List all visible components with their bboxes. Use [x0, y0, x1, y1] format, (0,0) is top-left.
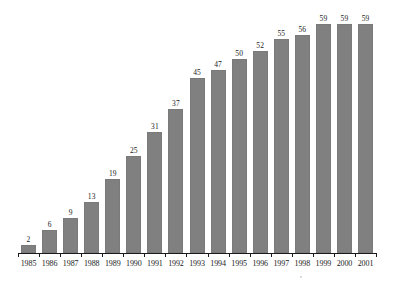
- bar-value-label: 2: [27, 235, 31, 244]
- bar-value-label: 59: [362, 14, 370, 23]
- x-axis-tick: [60, 253, 61, 257]
- bar: [126, 156, 141, 253]
- bar-chart: 2691319253137454750525556595959 19851986…: [0, 0, 394, 283]
- bar-value-label: 13: [88, 192, 96, 201]
- bar-value-label: 50: [235, 49, 243, 58]
- x-axis-tick: [208, 253, 209, 257]
- scan-artifact-speck: [300, 276, 302, 278]
- plot-area: 2691319253137454750525556595959: [18, 8, 376, 253]
- x-axis-tick: [334, 253, 335, 257]
- x-axis-tick: [313, 253, 314, 257]
- bar: [42, 230, 57, 253]
- bar-cell: 47: [208, 8, 229, 253]
- bar-value-label: 37: [172, 99, 180, 108]
- bar-cell: 50: [229, 8, 250, 253]
- bar-value-label: 47: [214, 60, 222, 69]
- x-axis-label: 1991: [144, 258, 165, 269]
- x-axis-label: 1994: [208, 258, 229, 269]
- x-axis-label: 1985: [18, 258, 39, 269]
- bar-cell: 2: [18, 8, 39, 253]
- x-axis-label: 1992: [165, 258, 186, 269]
- bar-value-label: 45: [193, 68, 201, 77]
- x-axis-tick: [165, 253, 166, 257]
- bar: [253, 51, 268, 253]
- x-axis-label: 1997: [271, 258, 292, 269]
- bar-value-label: 19: [109, 169, 117, 178]
- bar-cell: 19: [102, 8, 123, 253]
- bar: [21, 245, 36, 253]
- bar-cell: 25: [123, 8, 144, 253]
- bar-value-label: 52: [256, 41, 264, 50]
- x-axis-label: 1987: [60, 258, 81, 269]
- bar-value-label: 6: [48, 220, 52, 229]
- x-axis-tick: [81, 253, 82, 257]
- bar-value-label: 59: [341, 14, 349, 23]
- x-axis-labels: 1985198619871988198919901991199219931994…: [18, 258, 376, 269]
- bar-cell: 9: [60, 8, 81, 253]
- bar: [316, 24, 331, 253]
- x-axis-tick: [18, 253, 19, 257]
- x-axis-tick: [271, 253, 272, 257]
- bar: [274, 39, 289, 253]
- bar-cell: 59: [355, 8, 376, 253]
- x-axis-label: 1988: [81, 258, 102, 269]
- bar: [105, 179, 120, 253]
- x-axis-label: 1990: [123, 258, 144, 269]
- bar: [63, 218, 78, 253]
- bar: [232, 59, 247, 253]
- bar: [211, 70, 226, 253]
- x-axis-tick: [250, 253, 251, 257]
- x-axis-label: 1989: [102, 258, 123, 269]
- bar-cell: 37: [165, 8, 186, 253]
- x-axis-label: 2001: [355, 258, 376, 269]
- bar-cell: 59: [334, 8, 355, 253]
- x-axis-label: 1999: [313, 258, 334, 269]
- bar-cell: 6: [39, 8, 60, 253]
- x-axis-label: 1996: [250, 258, 271, 269]
- bar: [190, 78, 205, 253]
- x-axis-tick: [292, 253, 293, 257]
- x-axis-label: 2000: [334, 258, 355, 269]
- x-axis-label: 1993: [187, 258, 208, 269]
- bar-cell: 59: [313, 8, 334, 253]
- x-axis-tick: [102, 253, 103, 257]
- x-axis-label: 1986: [39, 258, 60, 269]
- bar-cell: 56: [292, 8, 313, 253]
- bar-cell: 55: [271, 8, 292, 253]
- x-axis-ticks: [18, 253, 376, 257]
- bar-value-label: 25: [130, 146, 138, 155]
- x-axis-label: 1998: [292, 258, 313, 269]
- bar: [84, 202, 99, 253]
- bar: [168, 109, 183, 253]
- bar-value-label: 55: [277, 29, 285, 38]
- x-axis-tick: [123, 253, 124, 257]
- x-axis-tick: [186, 253, 187, 257]
- bar-cell: 13: [81, 8, 102, 253]
- bar-value-label: 31: [151, 122, 159, 131]
- bar-value-label: 9: [69, 208, 73, 217]
- x-axis-label: 1995: [229, 258, 250, 269]
- x-axis-tick: [229, 253, 230, 257]
- bar-value-label: 56: [298, 25, 306, 34]
- bar-cell: 52: [250, 8, 271, 253]
- x-axis-tick: [355, 253, 356, 257]
- bar: [295, 35, 310, 253]
- bar-series: 2691319253137454750525556595959: [18, 8, 376, 253]
- bar: [337, 24, 352, 253]
- bar: [358, 24, 373, 253]
- x-axis-tick: [376, 253, 377, 257]
- bar-cell: 45: [187, 8, 208, 253]
- bar-cell: 31: [144, 8, 165, 253]
- x-axis-tick: [39, 253, 40, 257]
- bar-value-label: 59: [320, 14, 328, 23]
- x-axis-tick: [144, 253, 145, 257]
- bar: [147, 132, 162, 253]
